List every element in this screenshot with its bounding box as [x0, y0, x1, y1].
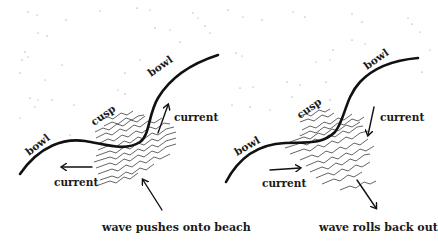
label-current-left: current: [262, 177, 306, 189]
panel-left: bowl bowl cusp current current wave push…: [20, 53, 251, 234]
beach-cusp-diagram: bowl bowl cusp current current wave push…: [0, 0, 438, 245]
caption-wave-rolls-back: wave rolls back out: [318, 221, 438, 234]
label-current-right: current: [380, 111, 424, 123]
wave-arrow-away-from-shore: [357, 180, 376, 208]
label-cusp: cusp: [88, 102, 117, 127]
wave-lines: [94, 111, 176, 186]
current-arrow-right: [270, 168, 300, 170]
label-current-left: current: [54, 176, 98, 188]
label-current-right: current: [174, 111, 218, 123]
label-bowl-upper: bowl: [361, 46, 390, 72]
caption-wave-pushes: wave pushes onto beach: [101, 221, 251, 234]
wave-arrow-toward-shore: [143, 180, 162, 210]
label-bowl-upper: bowl: [145, 53, 174, 79]
current-arrow-down: [368, 107, 374, 135]
panel-right: bowl bowl cusp current current wave roll…: [226, 46, 438, 234]
label-bowl-lower: bowl: [232, 134, 262, 158]
sand-speckles: [19, 7, 430, 135]
